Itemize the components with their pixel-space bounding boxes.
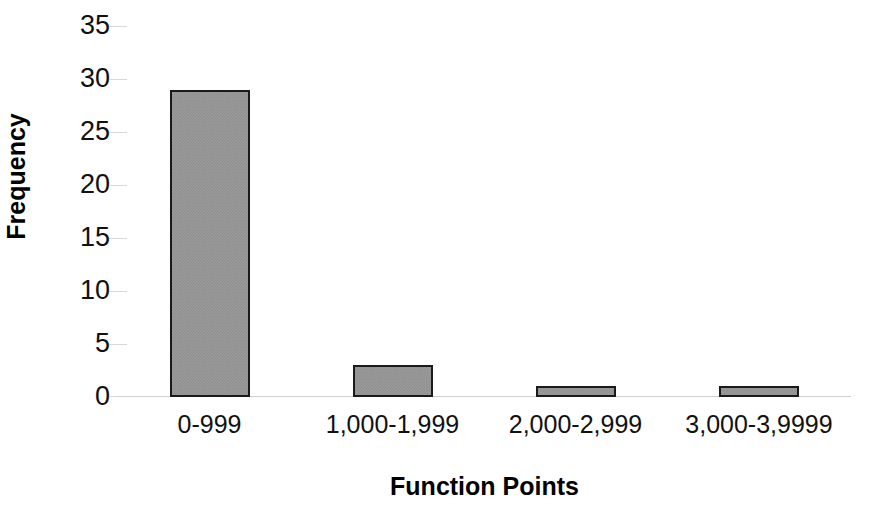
y-tick-label: 35 <box>48 12 110 39</box>
y-tick-label: 5 <box>48 330 110 357</box>
bar-chart: Frequency 35 30 25 20 15 10 5 0 <box>0 0 877 524</box>
x-tick-label: 3,000-3,9999 <box>667 410 851 439</box>
y-tick-label: 15 <box>48 224 110 251</box>
bar-slot <box>118 26 301 397</box>
y-tick-label: 10 <box>48 277 110 304</box>
y-tick-label: 0 <box>48 383 110 410</box>
y-tick-label: 25 <box>48 118 110 145</box>
y-tick-label: 20 <box>48 171 110 198</box>
x-axis-title: Function Points <box>118 472 851 501</box>
x-tick-label: 1,000-1,999 <box>301 410 484 439</box>
bar-slot <box>301 26 484 397</box>
bar-slot <box>484 26 667 397</box>
bar-group <box>118 26 851 397</box>
bar-3000-39999[interactable] <box>719 386 799 397</box>
x-tick-label: 0-999 <box>118 410 301 439</box>
y-axis-title: Frequency <box>2 77 31 277</box>
y-tick-label: 30 <box>48 65 110 92</box>
plot-area <box>118 26 851 397</box>
y-axis-tick-labels: 35 30 25 20 15 10 5 0 <box>40 0 110 420</box>
x-tick-label: 2,000-2,999 <box>484 410 667 439</box>
bar-0-999[interactable] <box>170 90 250 397</box>
x-axis-tick-labels: 0-999 1,000-1,999 2,000-2,999 3,000-3,99… <box>118 410 851 454</box>
bar-2000-2999[interactable] <box>536 386 616 397</box>
bar-slot <box>667 26 851 397</box>
bar-1000-1999[interactable] <box>353 365 433 397</box>
